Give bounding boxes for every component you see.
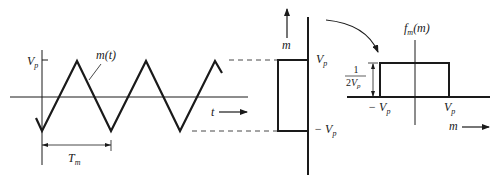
pdf-plot: fm(m) 1 2Vp − Vp Vp m (345, 21, 490, 133)
right-edge-label: Vp (444, 100, 455, 116)
height-arrow-up (371, 63, 375, 69)
pdf-label: fm(m) (404, 21, 430, 37)
time-axis-label: t (211, 105, 215, 119)
pdf-axis-label: m (449, 119, 458, 133)
signal-label-leader (89, 64, 101, 80)
triangle-wave-pdf-diagram: Vp m(t) t Tm m Vp − Vp (0, 0, 500, 187)
lower-level-label: − Vp (314, 122, 336, 138)
uniform-pulse-shape (278, 60, 308, 131)
period-arrow-left (42, 143, 48, 147)
height-denominator: 2Vp (346, 77, 361, 90)
transform-curved-arrow (326, 20, 378, 52)
amplitude-histogram-plot: m Vp − Vp (278, 9, 336, 175)
triangle-wave-signal (36, 61, 222, 131)
height-numerator: 1 (354, 64, 359, 75)
period-arrow-right (105, 143, 111, 147)
vp-label: Vp (27, 54, 38, 70)
period-label: Tm (68, 151, 81, 167)
left-edge-label: − Vp (368, 100, 390, 116)
upper-level-label: Vp (316, 52, 327, 68)
m-axis-label: m (282, 38, 291, 52)
triangle-wave-plot: Vp m(t) t Tm (10, 48, 248, 167)
signal-label: m(t) (96, 48, 116, 62)
